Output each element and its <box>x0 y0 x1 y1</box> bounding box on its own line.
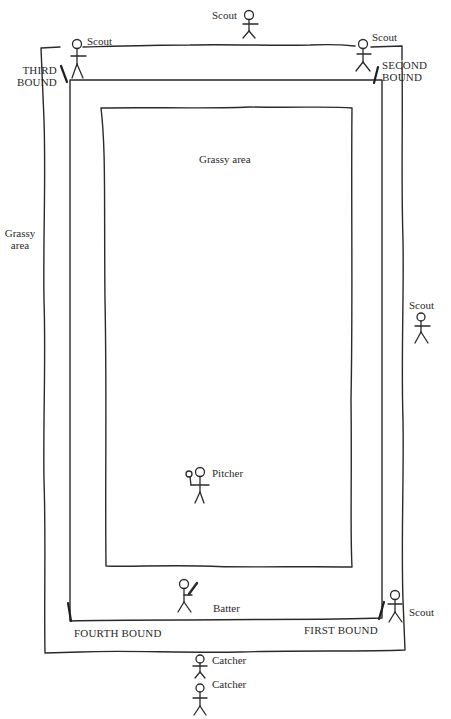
scout-figure-right <box>415 313 430 343</box>
batter-label: Batter <box>213 602 240 614</box>
third-bound-line1: THIRD <box>15 64 57 76</box>
scout-label-top-right: Scout <box>372 31 397 43</box>
batter-figure <box>178 580 197 613</box>
catcher-figure-1 <box>193 655 207 678</box>
grassy-area-inner-label: Grassy area <box>199 153 251 165</box>
pitcher-label: Pitcher <box>212 467 243 479</box>
third-bound-marker <box>61 66 67 82</box>
grassy-outer-line2: area <box>2 239 38 251</box>
second-bound-line2: BOUND <box>382 71 427 83</box>
scout-label-top-center: Scout <box>212 9 237 21</box>
scout-figure-top-right <box>356 40 371 72</box>
grassy-area-outer-label: Grassy area <box>2 227 38 251</box>
scout-label-top-left: Scout <box>87 35 112 47</box>
third-bound-label: THIRD BOUND <box>15 64 57 88</box>
inner-grass-boundary <box>101 107 352 567</box>
catcher-figure-2 <box>193 684 207 715</box>
catcher-label-2: Catcher <box>212 678 246 690</box>
bat-icon <box>189 583 197 594</box>
scout-figure-top-left <box>71 40 86 79</box>
scout-figure-top-center <box>243 11 258 39</box>
scout-figure-bottom-right <box>388 591 402 623</box>
fourth-bound-label: FOURTH BOUND <box>74 627 162 639</box>
first-bound-label: FIRST BOUND <box>304 624 378 636</box>
catcher-label-1: Catcher <box>212 654 246 666</box>
scout-label-right: Scout <box>409 299 434 311</box>
outer-boundary <box>41 45 405 653</box>
ball-icon <box>186 471 192 477</box>
pitcher-figure <box>186 468 209 504</box>
scout-label-bottom-right: Scout <box>409 606 434 618</box>
second-bound-label: SECOND BOUND <box>382 59 427 83</box>
third-bound-line2: BOUND <box>15 76 57 88</box>
second-bound-line1: SECOND <box>382 59 427 71</box>
grassy-outer-line1: Grassy <box>2 227 38 239</box>
